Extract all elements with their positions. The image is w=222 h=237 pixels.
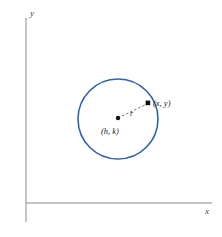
center-point-marker xyxy=(116,116,120,120)
circle-diagram: y x r (h, k) (x, y) xyxy=(0,0,222,237)
center-point-label: (h, k) xyxy=(101,126,119,136)
diagram-canvas: y x r (h, k) (x, y) xyxy=(0,0,222,237)
circumference-point-label: (x, y) xyxy=(153,98,171,108)
circumference-point-marker xyxy=(146,101,151,106)
x-axis-label: x xyxy=(204,206,209,216)
canvas-background xyxy=(0,0,222,237)
y-axis-label: y xyxy=(29,8,34,18)
